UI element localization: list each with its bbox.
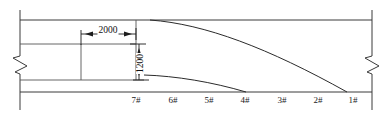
dim-arrow-left-2000-icon xyxy=(85,32,93,37)
pier-label-7: 7# xyxy=(132,96,141,105)
dim-arrow-right-2000-icon xyxy=(124,32,132,37)
pier-label-6: 6# xyxy=(169,96,178,105)
lower-haunch-curve xyxy=(144,75,246,92)
pier-label-2: 2# xyxy=(314,96,323,105)
left-break-symbol-icon xyxy=(13,56,27,110)
pier-label-4: 4# xyxy=(241,96,250,105)
drawing-svg xyxy=(0,0,391,118)
pier-label-5: 5# xyxy=(205,96,214,105)
pier-label-3: 3# xyxy=(278,96,287,105)
pier-label-1: 1# xyxy=(349,96,358,105)
upper-haunch-curve xyxy=(150,20,347,92)
dimension-label-2000: 2000 xyxy=(98,26,119,36)
dimension-label-1200: 1200 xyxy=(136,53,146,74)
right-break-symbol-icon xyxy=(365,56,379,110)
engineering-drawing-canvas: 2000 1200 7# 6# 5# 4# 3# 2# 1# xyxy=(0,0,391,118)
